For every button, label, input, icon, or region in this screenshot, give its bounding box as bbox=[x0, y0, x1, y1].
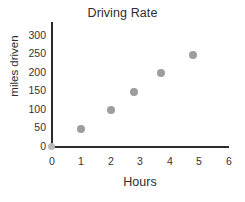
y-tick-label: 100 bbox=[0, 104, 46, 114]
x-tick-label: 3 bbox=[137, 155, 143, 167]
y-tick-0: 0 bbox=[0, 141, 46, 151]
y-tick-label: 50 bbox=[0, 122, 46, 132]
y-tick-label: 150 bbox=[0, 85, 46, 95]
x-axis-title: Hours bbox=[51, 175, 229, 189]
x-tick-3: 3 bbox=[130, 151, 150, 163]
y-tick-label: 300 bbox=[0, 30, 46, 40]
x-tick-6: 6 bbox=[219, 151, 239, 163]
y-tick-300: 300 bbox=[0, 30, 46, 40]
data-point bbox=[77, 125, 85, 133]
x-tick-label: 4 bbox=[167, 155, 173, 167]
x-tick-label: 0 bbox=[49, 155, 55, 167]
x-tick-1: 1 bbox=[71, 151, 91, 163]
y-tick-250: 250 bbox=[0, 48, 46, 58]
plot-area: 300 250 200 150 100 50 0 0 1 2 3 bbox=[0, 0, 245, 202]
y-axis-title: miles driven bbox=[8, 16, 20, 116]
chart-figure: Driving Rate 300 250 200 150 100 50 0 0 bbox=[0, 0, 245, 202]
y-tick-150: 150 bbox=[0, 85, 46, 95]
data-point bbox=[157, 69, 165, 77]
y-tick-label: 200 bbox=[0, 67, 46, 77]
y-tick-50: 50 bbox=[0, 122, 46, 132]
x-tick-5: 5 bbox=[189, 151, 209, 163]
x-tick-label: 6 bbox=[226, 155, 232, 167]
y-tick-100: 100 bbox=[0, 104, 46, 114]
data-point bbox=[189, 51, 197, 59]
x-tick-0: 0 bbox=[42, 151, 62, 163]
x-tick-2: 2 bbox=[101, 151, 121, 163]
y-tick-label: 0 bbox=[0, 141, 46, 151]
data-point bbox=[130, 88, 138, 96]
x-tick-4: 4 bbox=[160, 151, 180, 163]
data-point bbox=[107, 106, 115, 114]
x-tick-label: 1 bbox=[78, 155, 84, 167]
x-tick-label: 5 bbox=[196, 155, 202, 167]
y-tick-200: 200 bbox=[0, 67, 46, 77]
origin-marker bbox=[48, 143, 55, 150]
y-axis-line bbox=[51, 22, 53, 147]
x-tick-label: 2 bbox=[108, 155, 114, 167]
x-axis-line bbox=[51, 146, 229, 148]
y-tick-label: 250 bbox=[0, 48, 46, 58]
